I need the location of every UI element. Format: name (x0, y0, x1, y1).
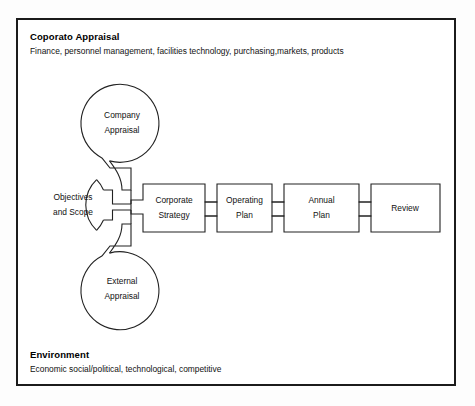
connector-objectives-to-hub-upper (104, 190, 132, 204)
connector-objectives-to-hub-lower (104, 210, 132, 220)
stage-box-annual-plan (272, 184, 371, 232)
objectives-and-scope-circle-upper (86, 180, 97, 231)
company-appraisal-circle (81, 84, 159, 162)
diagram-page: Coporato Appraisal Finance, personnel ma… (0, 0, 475, 406)
objectives-and-scope-circle-lower (97, 180, 104, 190)
objectives-and-scope-circle-lower2 (97, 220, 104, 230)
diagram-canvas (0, 0, 475, 406)
stage-box-corporate-strategy (131, 184, 217, 232)
external-appraisal-circle (81, 252, 159, 330)
